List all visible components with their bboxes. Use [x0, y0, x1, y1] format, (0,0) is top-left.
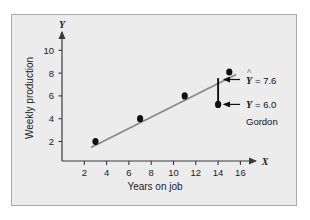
data-point [182, 92, 188, 99]
x-tick-label-16: 16 [235, 167, 246, 178]
y-axis-symbol: Y [59, 19, 66, 30]
x-axis-symbol: X [261, 156, 269, 167]
x-tick-label-6: 6 [126, 167, 131, 178]
data-points [92, 68, 232, 145]
y-tick-label-10: 10 [43, 45, 54, 56]
y-tick-label-8: 8 [49, 68, 54, 79]
x-tick-label-4: 4 [104, 167, 109, 178]
data-point [137, 115, 143, 122]
y-axis-title: Weekly production [24, 57, 35, 139]
x-tick-label-14: 14 [213, 167, 224, 178]
subject-name-label: Gordon [246, 116, 278, 127]
regression-line [91, 75, 236, 148]
predicted-y-symbol: Y [246, 75, 253, 86]
y-tick-label-6: 6 [49, 90, 54, 101]
predicted-value-text: = 7.6 [255, 75, 276, 86]
scatter-plot: 2 4 6 8 10 2 4 6 8 10 12 14 16 Y X Years… [0, 0, 310, 220]
y-tick-label-2: 2 [49, 136, 54, 147]
data-point [226, 68, 232, 75]
data-point-gordon [215, 101, 221, 108]
x-tick-label-2: 2 [82, 167, 87, 178]
x-tick-label-12: 12 [191, 167, 202, 178]
data-point [92, 138, 98, 145]
x-tick-label-8: 8 [149, 167, 154, 178]
x-axis-title: Years on job [127, 181, 183, 192]
y-tick-label-4: 4 [49, 113, 54, 124]
observed-y-symbol: Y [246, 99, 253, 110]
figure-container: 2 4 6 8 10 2 4 6 8 10 12 14 16 Y X Years… [0, 0, 310, 220]
x-tick-label-10: 10 [168, 167, 179, 178]
observed-value-text: = 6.0 [255, 99, 276, 110]
